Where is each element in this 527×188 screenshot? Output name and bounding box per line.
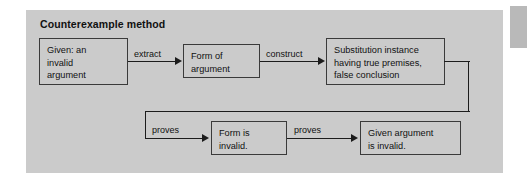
edge-label-proves-form: proves [152, 125, 179, 135]
edge-proves-argument-arrowhead [351, 134, 358, 142]
node-form-is-invalid: Form is invalid. [211, 121, 287, 155]
edge-extract-line [128, 61, 176, 62]
edge-proves-form-line [145, 138, 203, 139]
edge-construct-arrowhead [318, 57, 325, 65]
node-given-invalid-argument: Given: an invalid argument [39, 38, 128, 85]
feedback-segment-right [444, 61, 470, 62]
counterexample-method-panel: Counterexample method Given: an invalid … [26, 10, 503, 173]
node-form-of-argument: Form of argument [183, 44, 260, 78]
edge-label-extract: extract [134, 49, 161, 59]
side-strip-decoration [510, 6, 527, 48]
edge-label-proves-argument: proves [294, 125, 321, 135]
feedback-segment-down [468, 61, 469, 112]
figure-canvas: Counterexample method Given: an invalid … [0, 0, 527, 188]
edge-label-construct: construct [266, 49, 303, 59]
feedback-segment-down-left [145, 111, 146, 139]
feedback-segment-left [145, 111, 470, 112]
node-substitution-instance: Substitution instance having true premis… [326, 38, 445, 85]
edge-extract-arrowhead [175, 57, 182, 65]
page-title: Counterexample method [40, 18, 165, 30]
node-given-argument-is-invalid: Given argument is invalid. [360, 121, 461, 155]
edge-proves-form-arrowhead [202, 134, 209, 142]
edge-construct-line [260, 61, 319, 62]
edge-proves-argument-line [287, 138, 352, 139]
